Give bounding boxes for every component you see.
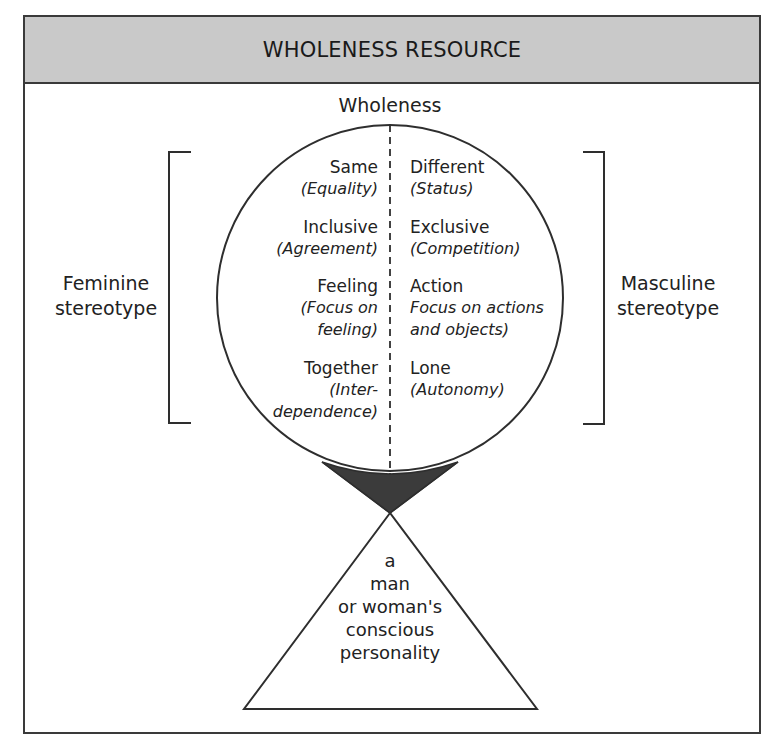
masculine-stereotype-label: Masculine stereotype	[603, 271, 733, 321]
triangle-line-2: man	[290, 572, 490, 595]
pair-4-right-term: Lone	[410, 357, 505, 379]
pair-2-left-note: (Agreement)	[276, 238, 378, 260]
triangle-line-1: a	[290, 549, 490, 572]
triangle-line-3: or woman's	[290, 595, 490, 618]
pair-1-right-term: Different	[410, 156, 485, 178]
pair-2-left: Inclusive (Agreement)	[276, 216, 378, 260]
pair-3-left: Feeling (Focus on feeling)	[300, 275, 378, 341]
masculine-label-line2: stereotype	[603, 296, 733, 321]
pair-4-left: Together (Inter- dependence)	[273, 357, 378, 423]
pair-1-left: Same (Equality)	[301, 156, 378, 200]
pair-3-left-note-line1: (Focus on	[300, 297, 378, 319]
pair-3-right: Action Focus on actions and objects)	[410, 275, 544, 341]
pair-3-right-term: Action	[410, 275, 544, 297]
pair-3-right-note-line1: Focus on actions	[410, 297, 544, 319]
feminine-label-line2: stereotype	[41, 296, 171, 321]
feminine-label-line1: Feminine	[41, 271, 171, 296]
pair-4-right: Lone (Autonomy)	[410, 357, 505, 401]
pair-4-left-note-line1: (Inter-	[273, 379, 378, 401]
pair-2-left-term: Inclusive	[276, 216, 378, 238]
personality-triangle-label: a man or woman's conscious personality	[290, 549, 490, 664]
pair-1-right: Different (Status)	[410, 156, 485, 200]
pair-1-left-note: (Equality)	[301, 178, 378, 200]
triangle-line-5: personality	[290, 641, 490, 664]
pair-3-left-note-line2: feeling)	[300, 319, 378, 341]
pair-1-right-note: (Status)	[410, 178, 485, 200]
pair-4-left-note-line2: dependence)	[273, 401, 378, 423]
pair-2-right-note: (Competition)	[410, 238, 520, 260]
left-bracket	[169, 152, 191, 423]
pair-2-right-term: Exclusive	[410, 216, 520, 238]
pair-3-left-term: Feeling	[300, 275, 378, 297]
masculine-label-line1: Masculine	[603, 271, 733, 296]
right-bracket	[583, 152, 604, 424]
wholeness-label: Wholeness	[290, 94, 490, 116]
pair-4-right-note: (Autonomy)	[410, 379, 505, 401]
funnel-wedge	[322, 462, 458, 513]
triangle-line-4: conscious	[290, 618, 490, 641]
pair-3-right-note-line2: and objects)	[410, 319, 544, 341]
pair-1-left-term: Same	[301, 156, 378, 178]
feminine-stereotype-label: Feminine stereotype	[41, 271, 171, 321]
pair-4-left-term: Together	[273, 357, 378, 379]
pair-2-right: Exclusive (Competition)	[410, 216, 520, 260]
